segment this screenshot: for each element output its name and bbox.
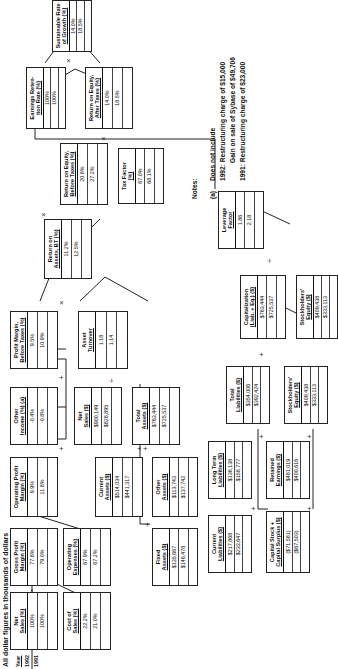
box-label: Capital Surplus ($)	[275, 513, 281, 571]
box-current-assets: CurrentAssets ($) $514,034 $441,317	[95, 457, 143, 517]
box-retained-earnings: RetainedEarnings ($) $481,019 $400,616	[266, 441, 310, 499]
box-capital-stock-surplus: Capital Stock +Capital Surplus ($) ($71,…	[266, 511, 310, 573]
box-asset-turnover: AssetTurnover 1.18 1.14	[78, 311, 128, 369]
year-labels: Year 1992 1991	[14, 655, 41, 667]
box-return-on-equity-at: Return on Equity,After Taxes (%) 14.0% 1…	[85, 67, 133, 129]
notes-line-1: Does not include	[208, 128, 217, 181]
box-long-term-liabilities: Long TermLiabilities ($) $136,138 $158,7…	[208, 441, 252, 499]
value-1991: $158,777	[235, 442, 244, 498]
divide-operator: ÷	[108, 379, 116, 383]
value-1992: $135,667	[170, 529, 179, 585]
dupont-diagram: All dollar figures in thousands of dolla…	[0, 0, 338, 669]
notes-line-4: 1991: Restructuring charge of $23,000	[238, 62, 247, 181]
value-1992: $763,444	[258, 276, 267, 338]
box-capitalization: Capitalization(Liab. + Eq.) ($) $763,444…	[240, 275, 286, 339]
box-label: Assets ($)	[161, 459, 167, 515]
box-label: Assets, BT (%)	[53, 221, 59, 277]
box-return-on-assets-bt: Return onAssets, BT (%) 11.2% 12.5%	[44, 219, 92, 279]
box-label: Liabilities ($)	[235, 368, 241, 422]
value-1991: -0.8%	[38, 388, 48, 444]
box-label: After Taxes (%)	[94, 69, 100, 127]
value-1992: 22.2%	[81, 593, 91, 649]
box-net-sales-dollars: NetSales ($) $900,149 $828,895	[74, 387, 122, 445]
box-gross-profit-margin: Gross ProfitMargin (%) 77.8% 79.0%	[10, 528, 58, 586]
value-1992: $113,743	[170, 458, 179, 516]
value-1991: 18.5%	[113, 68, 123, 128]
box-other-assets: OtherAssets ($) $113,743 $137,742	[152, 457, 198, 517]
box-earnings-retention-rate: Earnings Reten-tion Rate (%) 100% 100%	[26, 67, 66, 129]
box-label: of Growth (%)	[61, 2, 67, 50]
notes-line-2: 1992: Restructuring charge of $15,000	[218, 62, 227, 181]
box-label: Margin (%)	[19, 459, 25, 515]
times-operator: ×	[65, 58, 73, 63]
box-profit-margin-before-taxes: Profit Margin,Before Taxes (%) 9.5% 10.9…	[10, 311, 58, 369]
box-label: (%)	[127, 150, 133, 202]
value-1991: 10.9%	[38, 312, 48, 368]
value-1991: $392,424	[253, 367, 262, 423]
value-1992: $900,149	[92, 388, 102, 444]
value-1992: $354,006	[244, 367, 253, 423]
box-stockholders-equity: Stockholders'Equity ($) $409,438 $333,11…	[284, 366, 328, 424]
box-operating-expenses: OperatingExpenses (%) 67.9% 67.2%	[63, 528, 111, 586]
value-1992: 1.18	[96, 312, 107, 368]
box-label: Factor	[227, 193, 233, 247]
box-total-liabilities: TotalLiabilities ($) $354,006 $392,424	[226, 366, 270, 424]
plus-operator: +	[142, 446, 150, 451]
value-1992: 9.5%	[28, 312, 38, 368]
box-label: Sales (%)	[19, 594, 25, 648]
value-1991: 27.2%	[88, 144, 98, 204]
value-1992: 67.9%	[81, 529, 91, 585]
value-1991: $333,113	[322, 276, 330, 338]
value-1992: 100%	[28, 593, 38, 649]
box-sustainable-growth-rate: Sustainable Rateof Growth (%) 14.0% 18.5…	[52, 0, 92, 52]
box-label: Liabilities ($)	[217, 443, 223, 497]
box-label: Before Taxes (%)	[19, 313, 25, 367]
box-tax-factor: Tax Factor(%) 67.0% 68.1%	[118, 148, 164, 204]
value-1991: 79.0%	[38, 529, 48, 585]
box-label: Liabilities ($)	[217, 517, 223, 571]
box-label: Margin (%)	[19, 530, 25, 584]
value-1992: 14.0%	[70, 1, 77, 51]
value-1992: 14.0%	[103, 68, 113, 128]
box-label: Equity ($)	[305, 277, 311, 337]
value-1991: $400,616	[293, 442, 302, 498]
box-label: Assets ($)	[104, 459, 110, 515]
value-1991: 12.5%	[72, 220, 82, 278]
box-label: Expenses (%)	[72, 530, 78, 584]
box-label: Equity ($)	[293, 368, 299, 422]
value-1992: 11.2%	[62, 220, 72, 278]
plus-operator: +	[58, 446, 66, 451]
value-1991: $441,317	[123, 458, 133, 516]
box-label: Assets ($)	[141, 389, 147, 443]
box-label: (Liab. + Eq.) ($)	[249, 277, 255, 337]
value-1991: 1.14	[107, 312, 118, 368]
box-operating-profit-margin: Operating ProfitMargin (%) 9.9% 11.8%	[10, 457, 58, 517]
box-label: Turnover	[87, 313, 93, 367]
value-1992: 77.8%	[28, 529, 38, 585]
value-1991: $233,647	[235, 516, 244, 572]
box-return-on-equity-bt: Return on Equity,Before Taxes (%) 20.8% …	[60, 143, 108, 205]
year-header: Year	[14, 655, 23, 667]
box-label: tion Rate (%)	[35, 69, 41, 127]
value-1991: $725,537	[160, 388, 170, 444]
notes-label: Notes:	[190, 178, 199, 199]
plus-operator: +	[306, 434, 314, 439]
value-1991: 68.1%	[145, 149, 154, 203]
units-caption: All dollar figures in thousands of dolla…	[2, 533, 9, 667]
value-1992: -0.4%	[28, 388, 38, 444]
value-1992: $481,019	[284, 442, 293, 498]
box-label: Assets ($)	[161, 530, 167, 584]
value-1992: 20.8%	[78, 144, 88, 204]
plus-operator: +	[144, 522, 152, 527]
value-1992: 9.9%	[28, 458, 38, 516]
box-label: Sales ($)	[83, 389, 89, 443]
value-1991: $828,895	[102, 388, 112, 444]
value-1991: $333,113	[311, 367, 320, 423]
notes-marker: (a)	[208, 191, 217, 199]
value-1992: $136,138	[226, 442, 235, 498]
plus-operator: +	[250, 506, 258, 511]
notes-line-3: Gain on sale of Sybase of $49,706	[228, 57, 237, 163]
value-1992: 1.86	[236, 192, 245, 248]
year-1991: 1991	[32, 655, 41, 667]
value-1991: 100%	[51, 68, 58, 128]
